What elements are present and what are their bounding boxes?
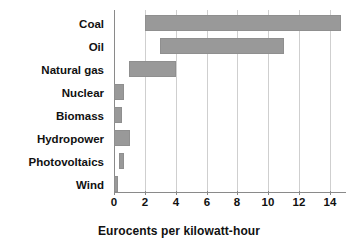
x-tick-label-8: 8 [234,195,240,209]
x-tick-label-4: 4 [173,195,179,209]
x-axis-line [114,192,346,193]
x-axis-tick-labels: 0 2 4 6 8 10 12 14 [114,195,346,211]
x-tick-label-14: 14 [324,195,337,209]
gridline-14 [330,10,331,193]
x-axis-title: Eurocents per kilowatt-hour [0,224,358,238]
bar-oil [160,38,284,54]
bar-hydropower [114,130,130,146]
plot-area [114,10,346,193]
gridline-12 [299,10,300,193]
category-label-wind: Wind [76,179,104,192]
gridline-2 [145,10,146,193]
bar-chart: Coal Oil Natural gas Nuclear Biomass Hyd… [0,0,358,250]
x-tick-label-6: 6 [204,195,210,209]
y-axis-line [114,10,115,193]
category-label-photovoltaics: Photovoltaics [29,156,104,169]
bar-photovoltaics [119,153,124,169]
bar-natural-gas [129,61,176,77]
bar-biomass [114,107,122,123]
x-tick-label-2: 2 [142,195,148,209]
x-tick-label-12: 12 [293,195,306,209]
category-label-hydropower: Hydropower [37,133,104,146]
category-label-biomass: Biomass [56,110,104,123]
bar-nuclear [114,84,124,100]
y-axis-category-labels: Coal Oil Natural gas Nuclear Biomass Hyd… [0,10,110,193]
x-tick-label-10: 10 [262,195,275,209]
category-label-nuclear: Nuclear [62,87,104,100]
category-label-natural-gas: Natural gas [41,64,104,77]
bar-wind [114,176,118,192]
category-label-oil: Oil [89,41,104,54]
category-label-coal: Coal [79,18,104,31]
bar-coal [145,15,341,31]
x-tick-label-0: 0 [111,195,117,209]
